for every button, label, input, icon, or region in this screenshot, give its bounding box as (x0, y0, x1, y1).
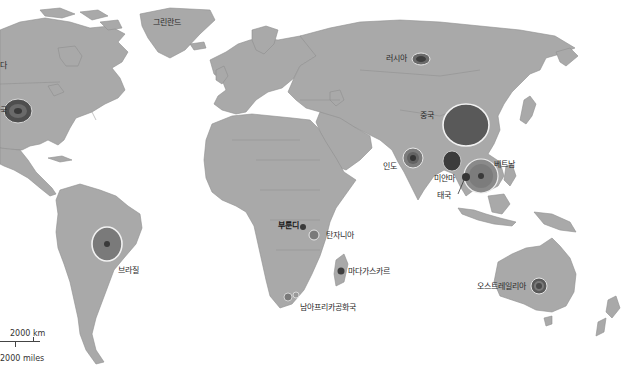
label-australia: 오스트레일리아 (477, 283, 526, 291)
label-burundi: 부룬디 (278, 222, 299, 230)
symbol-china[interactable] (443, 104, 489, 146)
label-greenland: 그린란드 (153, 19, 181, 27)
label-madagascar: 마다가스카르 (348, 268, 390, 276)
symbol-india[interactable] (403, 148, 423, 168)
label-south-africa: 남아프리카공화국 (300, 304, 356, 312)
label-vietnam: 베트남 (494, 161, 515, 169)
world-map: 다 국 그린란드 러시아 중국 인도 미얀마 태국 베트남 부룬디 탄자니아 마… (0, 0, 639, 374)
symbol-russia[interactable] (412, 53, 430, 65)
scale-tick-miles (15, 341, 16, 347)
symbol-brazil[interactable] (92, 227, 122, 261)
label-usa: 국 (0, 107, 7, 115)
label-brazil: 브라질 (118, 267, 139, 275)
symbol-australia[interactable] (531, 278, 547, 294)
label-india: 인도 (383, 163, 397, 171)
label-thailand: 태국 (437, 192, 451, 200)
symbol-myanmar[interactable] (443, 151, 461, 171)
scale-bar: 2000 km 2000 miles (0, 325, 70, 365)
label-russia: 러시아 (386, 55, 407, 63)
scale-km-label: 2000 km (10, 329, 45, 338)
symbol-madagascar[interactable] (338, 268, 345, 275)
symbol-tanzania[interactable] (309, 230, 319, 240)
scale-line (0, 341, 40, 342)
data-symbols (0, 0, 639, 374)
label-tanzania: 탄자니아 (326, 232, 354, 240)
label-china: 중국 (420, 112, 434, 120)
label-myanmar: 미얀마 (434, 175, 455, 183)
symbol-south-africa[interactable] (284, 292, 299, 301)
scale-miles-label: 2000 miles (0, 354, 44, 363)
symbol-usa[interactable] (4, 99, 32, 123)
label-canada: 다 (0, 62, 7, 70)
symbol-burundi[interactable] (300, 224, 306, 230)
scale-tick-km (33, 337, 34, 341)
